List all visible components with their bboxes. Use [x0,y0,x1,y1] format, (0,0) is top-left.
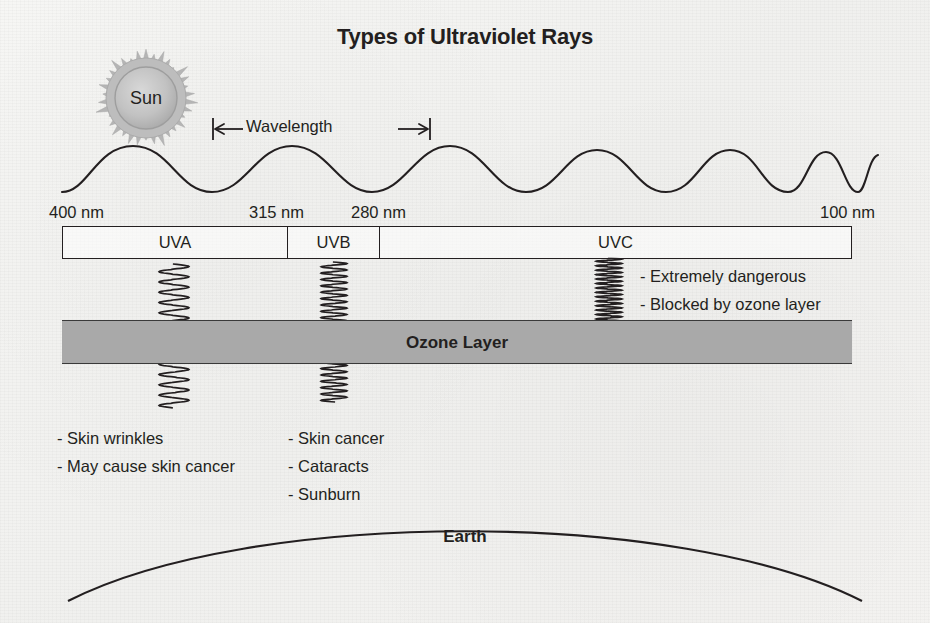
sun-graphic: Sun [86,42,206,160]
uv-band-bar: UVA UVB UVC [62,226,852,259]
list-item: - Blocked by ozone layer [640,290,821,318]
band-cell-uvc: UVC [379,227,851,258]
list-item: - Cataracts [288,452,384,480]
wavelength-label: Wavelength [246,117,333,136]
tick-label-100nm: 100 nm [820,203,875,222]
uv-rays-diagram: Types of Ultraviolet Rays Sun [0,0,930,623]
band-cell-uvb: UVB [287,227,379,258]
tick-label-400nm: 400 nm [49,203,104,222]
band-cell-uva: UVA [63,227,287,258]
list-item: - Extremely dangerous [640,262,821,290]
list-item: - Skin wrinkles [57,424,235,452]
list-item: - Sunburn [288,480,384,508]
uva-effects-list: - Skin wrinkles - May cause skin cancer [57,424,235,480]
tick-label-280nm: 280 nm [351,203,406,222]
sun-label: Sun [86,88,206,109]
list-item: - May cause skin cancer [57,452,235,480]
list-item: - Skin cancer [288,424,384,452]
uvc-effects-list: - Extremely dangerous - Blocked by ozone… [640,262,821,318]
tick-label-315nm: 315 nm [249,203,304,222]
uvb-effects-list: - Skin cancer - Cataracts - Sunburn [288,424,384,508]
ozone-layer-label: Ozone Layer [62,333,852,353]
earth-label: Earth [0,527,930,547]
